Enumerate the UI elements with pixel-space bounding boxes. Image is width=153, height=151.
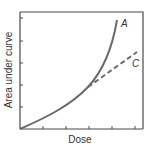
series-a-label: A — [120, 18, 128, 29]
auc-vs-dose-chart: A C Dose Area under curve — [0, 0, 153, 151]
series-c-dashed-line — [88, 52, 137, 87]
y-axis-label: Area under curve — [3, 31, 14, 108]
x-axis-label: Dose — [68, 134, 92, 145]
series-c-label: C — [132, 58, 140, 69]
chart-canvas: A C Dose Area under curve — [0, 0, 153, 151]
series-a-curve — [20, 20, 117, 129]
plot-frame — [20, 12, 143, 129]
